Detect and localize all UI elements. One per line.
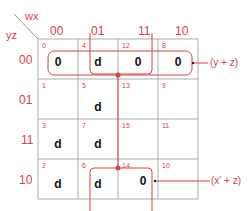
cell-index: 1 — [42, 82, 46, 89]
kmap-cell: 5d — [78, 79, 118, 119]
kmap-cell: 13 — [118, 79, 158, 119]
row-header-01: 01 — [19, 94, 32, 106]
cell-index: 4 — [82, 42, 86, 49]
cell-index: 6 — [82, 162, 86, 169]
karnaugh-map: wx yz 00 01 11 10 00 01 11 10 00 4d 120 … — [0, 0, 250, 211]
column-header-10: 10 — [175, 25, 188, 37]
kmap-cell: 1 — [38, 79, 78, 119]
cell-index: 5 — [82, 82, 86, 89]
kmap-cell: 120 — [118, 39, 158, 79]
cell-value: 0 — [118, 56, 158, 68]
cell-value: d — [78, 178, 118, 190]
group-label-y-plus-z: (y + z) — [210, 58, 238, 68]
group-label-xprime-plus-z: (x' + z) — [211, 176, 241, 186]
row-header-11: 11 — [21, 134, 33, 146]
cell-value: d — [78, 138, 118, 150]
kmap-cell: 6d — [78, 159, 118, 199]
cell-index: 10 — [162, 162, 170, 169]
row-header-00: 00 — [19, 54, 32, 66]
cell-value: d — [38, 178, 78, 190]
column-header-00: 00 — [50, 25, 63, 37]
kmap-cell: 15 — [118, 119, 158, 159]
row-variables-label: yz — [6, 30, 17, 41]
column-header-11: 11 — [138, 25, 150, 37]
row-header-10: 10 — [19, 174, 32, 186]
cell-index: 15 — [122, 122, 130, 129]
kmap-cell: 2d — [38, 159, 78, 199]
column-header-01: 01 — [91, 25, 104, 37]
kmap-cell: 4d — [78, 39, 118, 79]
kmap-cell: 11 — [158, 119, 198, 159]
cell-index: 9 — [162, 82, 166, 89]
kmap-cell: 80 — [158, 39, 198, 79]
cell-value: d — [78, 101, 118, 113]
cell-index: 14 — [122, 162, 130, 169]
cell-index: 11 — [162, 122, 169, 129]
cell-value: d — [38, 138, 78, 150]
cell-index: 8 — [162, 42, 166, 49]
kmap-cell: 140 — [118, 159, 158, 199]
kmap-cell: 10 — [158, 159, 198, 199]
cell-value: 0 — [38, 56, 78, 68]
kmap-cell: 3d — [38, 119, 78, 159]
column-variables-label: wx — [25, 11, 38, 22]
cell-index: 3 — [42, 122, 46, 129]
cell-index: 2 — [42, 162, 46, 169]
cell-value: 0 — [128, 175, 158, 187]
cell-index: 12 — [122, 42, 130, 49]
cell-value: d — [78, 56, 118, 68]
kmap-cell: 7d — [78, 119, 118, 159]
cell-index: 7 — [82, 122, 86, 129]
kmap-cell: 9 — [158, 79, 198, 119]
cell-index: 13 — [122, 82, 130, 89]
cell-index: 0 — [42, 42, 46, 49]
cell-value: 0 — [158, 56, 198, 68]
kmap-cell: 00 — [38, 39, 78, 79]
